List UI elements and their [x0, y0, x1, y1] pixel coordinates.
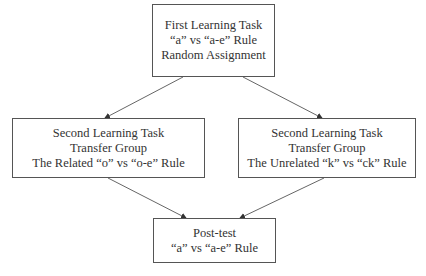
node-line: Second Learning Task [53, 126, 164, 141]
related-rule-box: Second Learning Task Transfer Group The … [12, 118, 205, 178]
arrow-first-to-related [105, 77, 183, 118]
node-line: The Related “o” vs “o-e” Rule [32, 156, 184, 171]
node-line: Random Assignment [161, 48, 266, 63]
node-line: First Learning Task [165, 18, 263, 33]
node-line: Transfer Group [289, 141, 366, 156]
node-line: The Unrelated “k” vs “ck” Rule [247, 156, 406, 171]
posttest-box: Post-test “a” vs “a-e” Rule [153, 218, 276, 263]
first-learning-task-box: First Learning Task “a” vs “a-e” Rule Ra… [152, 4, 275, 77]
node-line: Second Learning Task [271, 126, 382, 141]
node-line: Transfer Group [70, 141, 147, 156]
arrow-first-to-unrelated [243, 77, 322, 118]
node-line: “a” vs “a-e” Rule [171, 241, 258, 256]
unrelated-rule-box: Second Learning Task Transfer Group The … [238, 118, 416, 178]
arrow-unrelated-to-posttest [240, 178, 324, 218]
node-line: Post-test [193, 226, 236, 241]
arrow-related-to-posttest [108, 178, 186, 218]
node-line: “a” vs “a-e” Rule [170, 33, 257, 48]
